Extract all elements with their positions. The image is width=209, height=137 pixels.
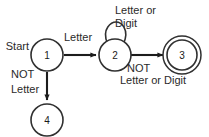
edge-label-letter: Letter [64,31,92,43]
self-loop-label-line2: Digit [115,17,137,29]
edge-label-not-letter-line2: Letter [11,83,39,95]
state-2-label: 2 [112,50,118,61]
edge-label-not-letter-digit-line1: NOT [127,62,151,74]
edge-label-not-letter-digit-line2: Letter or Digit [120,74,186,86]
state-diagram-canvas: 1 2 3 4 Start Letter Letter or Digit NOT… [0,0,209,137]
edge-label-not-letter-line1: NOT [11,68,35,80]
start-label: Start [6,40,29,52]
self-loop-label-line1: Letter or [115,4,156,16]
state-1-label: 1 [44,50,50,61]
fsm-diagram: 1 2 3 4 Start Letter Letter or Digit NOT… [0,0,209,137]
state-3-label: 3 [179,50,185,61]
state-4-label: 4 [44,115,50,126]
